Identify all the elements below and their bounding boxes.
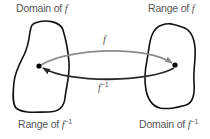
label-domain-of-f: Domain of f xyxy=(16,2,68,14)
label-arrow-f: f xyxy=(103,34,106,45)
label-arrow-f-inverse: f−1 xyxy=(98,82,109,93)
label-range-of-f-inverse: Range of f−1 xyxy=(18,118,72,130)
label-range-of-f: Range of f xyxy=(148,2,194,14)
arrow-f-inverse xyxy=(43,68,174,79)
label-domain-of-f-inverse: Domain of f−1 xyxy=(139,118,198,130)
arrow-f xyxy=(41,51,172,65)
point-x xyxy=(36,63,41,68)
range-of-f-set xyxy=(145,24,195,109)
point-y xyxy=(172,62,177,67)
